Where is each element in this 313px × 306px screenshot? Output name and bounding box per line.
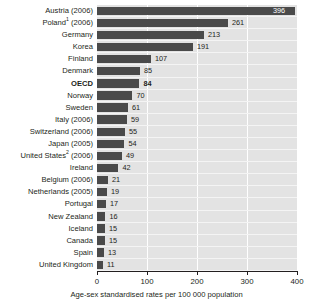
category-label-text: Finland bbox=[68, 54, 93, 63]
category-label: United Kingdom bbox=[0, 259, 93, 271]
category-label-text: Italy bbox=[55, 115, 69, 124]
category-label: Belgium (2006) bbox=[0, 174, 93, 186]
value-labels: 3962612131911078584706159555449422119171… bbox=[97, 5, 313, 271]
x-axis-tick bbox=[297, 271, 298, 275]
value-label: 11 bbox=[107, 259, 115, 271]
category-label-text: Iceland bbox=[69, 224, 94, 233]
value-label: 70 bbox=[137, 90, 145, 102]
category-label-text: Korea bbox=[73, 42, 93, 51]
category-label: Poland1 (2006) bbox=[0, 17, 93, 29]
category-label: Korea bbox=[0, 41, 93, 53]
category-label: Iceland bbox=[0, 223, 93, 235]
category-label-text: Spain bbox=[74, 248, 93, 257]
x-axis-tick-label: 100 bbox=[140, 276, 153, 287]
category-label-text: Germany bbox=[62, 30, 93, 39]
category-label-year: (2006) bbox=[69, 175, 93, 184]
category-label-text: OECD bbox=[71, 79, 93, 88]
category-label: Sweden bbox=[0, 102, 93, 114]
category-label-text: United States bbox=[20, 151, 66, 160]
value-label: 84 bbox=[144, 78, 152, 90]
category-label: Japan (2005) bbox=[0, 138, 93, 150]
category-label-year: (2006) bbox=[69, 115, 93, 124]
category-label-text: Belgium bbox=[42, 175, 69, 184]
value-label: 59 bbox=[131, 114, 139, 126]
category-label-year: (2006) bbox=[69, 151, 93, 160]
category-label-text: Netherlands bbox=[28, 187, 69, 196]
value-label: 13 bbox=[108, 247, 116, 259]
category-label: Italy (2006) bbox=[0, 114, 93, 126]
category-label-text: Japan bbox=[48, 139, 69, 148]
x-axis-tick-label: 200 bbox=[190, 276, 203, 287]
category-label-text: Sweden bbox=[66, 103, 93, 112]
category-label: Portugal bbox=[0, 198, 93, 210]
x-axis-title: Age-sex standardised rates per 100 000 p… bbox=[0, 289, 313, 300]
category-label: Finland bbox=[0, 53, 93, 65]
x-axis-tick-label: 300 bbox=[240, 276, 253, 287]
category-label-year: (2005) bbox=[69, 139, 93, 148]
x-axis-tick-label: 400 bbox=[290, 276, 303, 287]
category-label-year: (2006) bbox=[69, 127, 93, 136]
x-axis-tick bbox=[247, 271, 248, 275]
x-axis-tick-label: 0 bbox=[95, 276, 99, 287]
category-label-text: Ireland bbox=[70, 163, 93, 172]
category-label: Norway bbox=[0, 90, 93, 102]
category-label-text: United Kingdom bbox=[39, 260, 93, 269]
value-label: 17 bbox=[110, 198, 118, 210]
category-label-text: Norway bbox=[67, 91, 93, 100]
value-label: 396 bbox=[273, 5, 285, 17]
category-axis-labels: Austria (2006)Poland1 (2006)GermanyKorea… bbox=[0, 5, 93, 271]
category-label-text: Poland bbox=[42, 18, 66, 27]
category-label: Canada bbox=[0, 235, 93, 247]
category-label: Ireland bbox=[0, 162, 93, 174]
value-label: 213 bbox=[208, 29, 220, 41]
category-label: Spain bbox=[0, 247, 93, 259]
value-label: 191 bbox=[197, 41, 209, 53]
category-label-year: (2006) bbox=[69, 18, 93, 27]
value-label: 261 bbox=[232, 17, 244, 29]
x-axis-tick bbox=[197, 271, 198, 275]
category-label-text: Switzerland bbox=[30, 127, 69, 136]
value-label: 107 bbox=[155, 53, 167, 65]
category-label-text: Portugal bbox=[65, 199, 93, 208]
value-label: 54 bbox=[129, 138, 137, 150]
value-label: 16 bbox=[110, 211, 118, 223]
value-label: 21 bbox=[112, 174, 120, 186]
category-label: Germany bbox=[0, 29, 93, 41]
category-label: United States2 (2006) bbox=[0, 150, 93, 162]
value-label: 85 bbox=[144, 65, 152, 77]
value-label: 15 bbox=[109, 223, 117, 235]
value-label: 55 bbox=[129, 126, 137, 138]
category-label-text: Austria bbox=[45, 6, 69, 15]
category-label-year: (2006) bbox=[69, 6, 93, 15]
category-label: Denmark bbox=[0, 65, 93, 77]
value-label: 19 bbox=[111, 186, 119, 198]
category-label: Netherlands (2005) bbox=[0, 186, 93, 198]
value-label: 15 bbox=[109, 235, 117, 247]
category-label: Switzerland (2006) bbox=[0, 126, 93, 138]
category-label-text: Canada bbox=[66, 236, 93, 245]
category-label-year: (2005) bbox=[69, 187, 93, 196]
category-label-text: New Zealand bbox=[48, 212, 93, 221]
category-label: Austria (2006) bbox=[0, 5, 93, 17]
value-label: 61 bbox=[132, 102, 140, 114]
value-label: 49 bbox=[126, 150, 134, 162]
category-label: OECD bbox=[0, 78, 93, 90]
category-label-text: Denmark bbox=[62, 66, 93, 75]
x-axis-tick bbox=[147, 271, 148, 275]
value-label: 42 bbox=[123, 162, 131, 174]
x-axis-tick bbox=[97, 271, 98, 275]
category-label: New Zealand bbox=[0, 211, 93, 223]
bar-chart: Austria (2006)Poland1 (2006)GermanyKorea… bbox=[0, 0, 313, 306]
